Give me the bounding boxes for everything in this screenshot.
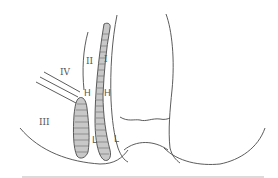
- upper-wavy-line: [120, 117, 170, 121]
- hatched-lobe-left: [73, 97, 89, 158]
- right-canal-wall: [166, 14, 180, 163]
- right-outer-curve: [164, 128, 265, 164]
- label-L-left: L: [92, 135, 97, 145]
- label-region-III: III: [39, 117, 50, 127]
- label-H-left: H: [84, 88, 91, 98]
- anatomical-diagram: II I IV III H H L L: [0, 0, 278, 178]
- label-region-IV: IV: [60, 67, 71, 77]
- label-L-right: L: [114, 134, 119, 144]
- label-region-I: I: [104, 54, 108, 64]
- lower-junction-curve: [124, 143, 168, 151]
- label-H-right: H: [104, 88, 111, 98]
- label-region-II: II: [86, 56, 94, 66]
